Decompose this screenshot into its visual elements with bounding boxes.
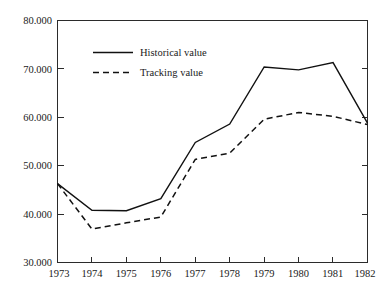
y-tick-label: 80.000: [23, 15, 52, 26]
y-tick-label: 60.000: [23, 112, 52, 123]
x-tick-label: 1982: [355, 268, 376, 279]
x-tick-label: 1974: [81, 268, 103, 279]
x-tick-label: 1979: [254, 268, 275, 279]
line-chart: 80.000 70.000 60.000 50.000 40.000: [0, 0, 389, 290]
legend-label: Tracking value: [140, 67, 203, 78]
legend-label: Historical value: [140, 47, 207, 58]
y-tick-label: 40.000: [23, 209, 52, 220]
chart-figure: 80.000 70.000 60.000 50.000 40.000: [0, 0, 389, 290]
y-tick-label: 30.000: [23, 257, 52, 268]
x-tick-label: 1977: [185, 268, 206, 279]
x-tick-1973: 1973: [49, 268, 70, 279]
x-tick-label: 1975: [116, 268, 137, 279]
x-tick-1982: 1982: [355, 268, 376, 279]
y-tick-label: 50.000: [23, 160, 52, 171]
y-tick-label: 70.000: [23, 64, 52, 75]
x-tick-label: 1976: [150, 268, 171, 279]
x-tick-label: 1981: [322, 268, 343, 279]
x-tick-label: 1980: [288, 268, 309, 279]
x-tick-label: 1978: [219, 268, 240, 279]
x-tick-label: 1973: [49, 268, 70, 279]
